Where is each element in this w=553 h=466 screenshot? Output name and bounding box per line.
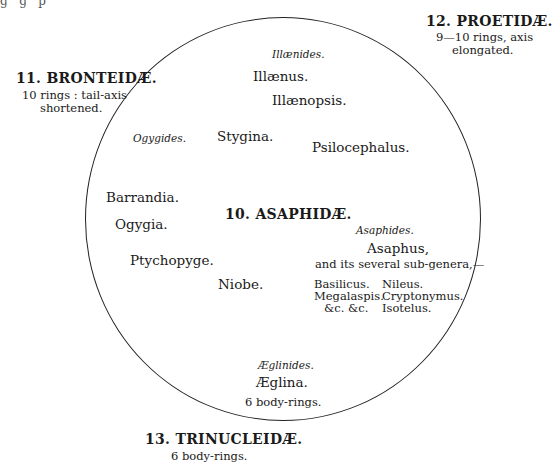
genus-ogygia: Ogygia.	[115, 217, 168, 232]
genus-illaenopsis: Illænopsis.	[272, 93, 347, 108]
group-asaphides: Asaphides.	[356, 225, 414, 237]
subgenus-etc: &c. &c.	[324, 302, 368, 315]
family-proetidae-desc2: elongated.	[452, 44, 513, 57]
genus-barrandia: Barrandia.	[106, 190, 179, 205]
genus-psilocephalus: Psilocephalus.	[312, 140, 410, 155]
genus-stygina: Stygina.	[217, 129, 273, 144]
family-bronteidae-desc: 10 rings : tail-axis	[22, 89, 127, 102]
genus-asaphus: Asaphus,	[367, 241, 429, 256]
group-illaenides: Illænides.	[272, 49, 325, 61]
family-proetidae-label: 12. PROETIDÆ.	[426, 14, 553, 29]
family-bronteidae-desc2: shortened.	[40, 102, 102, 115]
cropped-text-fragment: g g p	[0, 0, 46, 8]
family-proetidae-desc: 9—10 rings, axis	[436, 31, 533, 44]
group-aeglinides: Æglinides.	[258, 360, 314, 372]
asaphus-subgenera-note: and its several sub-genera,—	[315, 258, 484, 271]
genus-aeglina: Æglina.	[256, 375, 308, 390]
genus-ptychopyge: Ptychopyge.	[130, 253, 214, 268]
family-trinucleidae-label: 13. TRINUCLEIDÆ.	[145, 432, 302, 447]
subgenus-isotelus: Isotelus.	[382, 302, 431, 315]
genus-illaenus: Illænus.	[253, 69, 308, 84]
family-trinucleidae-desc: 6 body-rings.	[171, 450, 248, 463]
group-ogygides: Ogygides.	[133, 133, 186, 145]
genus-niobe: Niobe.	[218, 277, 263, 292]
family-bronteidae-label: 11. BRONTEIDÆ.	[16, 71, 157, 86]
aeglina-desc: 6 body-rings.	[245, 396, 322, 409]
family-asaphidae-label: 10. ASAPHIDÆ.	[225, 207, 352, 222]
